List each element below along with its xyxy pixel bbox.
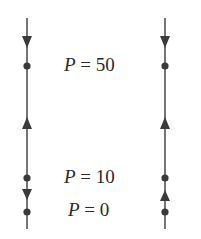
equilibrium-point-0 <box>161 208 168 215</box>
label-p-0: P = 0 <box>68 199 109 221</box>
variable-p: P <box>64 54 76 75</box>
equation-value: = 50 <box>76 54 115 75</box>
arrow-down-icon <box>22 36 32 48</box>
equilibrium-point-50 <box>23 62 30 69</box>
equation-value: = 0 <box>80 199 110 220</box>
arrow-up-icon <box>22 117 32 129</box>
variable-p: P <box>68 199 80 220</box>
arrow-up-icon <box>160 190 170 201</box>
equilibrium-point-10 <box>23 174 30 181</box>
label-p-10: P = 10 <box>64 166 115 188</box>
arrow-up-icon <box>160 117 170 129</box>
arrow-down-icon <box>160 36 170 48</box>
label-p-50: P = 50 <box>64 54 115 76</box>
variable-p: P <box>64 166 76 187</box>
arrow-down-icon <box>22 189 32 200</box>
equilibrium-point-0 <box>23 208 30 215</box>
equilibrium-point-10 <box>161 174 168 181</box>
equilibrium-point-50 <box>161 62 168 69</box>
equation-value: = 10 <box>76 166 115 187</box>
left-phase-line <box>22 18 32 229</box>
right-phase-line <box>160 18 170 229</box>
